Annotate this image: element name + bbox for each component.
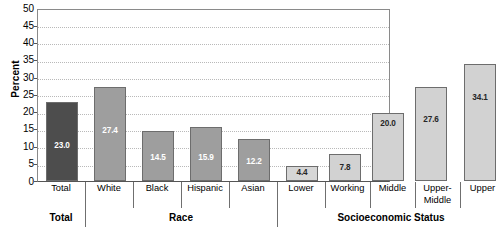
bar-total[interactable]: 23.0 bbox=[46, 102, 78, 181]
y-tick-label-0: 0 bbox=[12, 176, 34, 187]
x-label-separator-8 bbox=[415, 182, 416, 208]
x-axis-group-labels: Total Race Socioeconomic Status bbox=[37, 211, 390, 231]
bar-value-middle: 20.0 bbox=[373, 119, 403, 128]
bar-value-upper: 34.1 bbox=[465, 93, 495, 102]
x-label-separator-2 bbox=[133, 182, 134, 208]
bar-value-total: 23.0 bbox=[47, 141, 77, 150]
x-label-upper-middle: Upper- Middle bbox=[415, 183, 460, 206]
bar-asian[interactable]: 12.2 bbox=[238, 139, 270, 181]
y-tick-label-15: 15 bbox=[12, 123, 34, 134]
bar-lower[interactable]: 4.4 bbox=[286, 166, 318, 181]
y-tick-label-20: 20 bbox=[12, 106, 34, 117]
bar-value-upper-middle: 27.6 bbox=[416, 115, 446, 124]
x-label-asian: Asian bbox=[229, 183, 277, 195]
x-label-separator-7 bbox=[370, 182, 371, 208]
x-label-separator-6 bbox=[325, 182, 326, 208]
plot-area: 23.0 27.4 14.5 15.9 12.2 4.4 7.8 20.0 bbox=[37, 9, 390, 182]
x-label-white: White bbox=[85, 183, 133, 195]
x-label-upper-middle-line2: Middle bbox=[424, 195, 451, 205]
group-label-total: Total bbox=[37, 211, 85, 224]
bar-upper-middle[interactable]: 27.6 bbox=[415, 87, 447, 181]
bar-value-white: 27.4 bbox=[95, 126, 125, 135]
x-label-hispanic: Hispanic bbox=[181, 183, 229, 195]
x-label-working: Working bbox=[325, 183, 370, 195]
bar-value-hispanic: 15.9 bbox=[191, 153, 221, 162]
y-tick-label-10: 10 bbox=[12, 141, 34, 152]
group-separator-1 bbox=[85, 207, 86, 227]
y-tick-label-50: 50 bbox=[12, 3, 34, 14]
bar-value-asian: 12.2 bbox=[239, 157, 269, 166]
x-label-middle: Middle bbox=[370, 183, 415, 195]
x-label-upper-middle-line1: Upper- bbox=[423, 183, 451, 193]
bar-white[interactable]: 27.4 bbox=[94, 87, 126, 181]
x-label-separator-5 bbox=[277, 182, 278, 208]
x-label-black: Black bbox=[133, 183, 181, 195]
y-tick-label-45: 45 bbox=[12, 20, 34, 31]
x-axis-labels: Total White Black Hispanic Asian Lower W… bbox=[37, 183, 390, 209]
group-label-ses: Socioeconomic Status bbox=[277, 211, 500, 224]
bar-value-lower: 4.4 bbox=[287, 168, 317, 177]
x-label-upper: Upper bbox=[460, 183, 500, 195]
bar-value-black: 14.5 bbox=[143, 153, 173, 162]
x-label-total: Total bbox=[37, 183, 85, 195]
y-tick-label-25: 25 bbox=[12, 89, 34, 100]
bar-working[interactable]: 7.8 bbox=[329, 154, 361, 181]
bar-upper[interactable]: 34.1 bbox=[464, 64, 496, 181]
x-label-separator-3 bbox=[181, 182, 182, 208]
y-tick-label-30: 30 bbox=[12, 72, 34, 83]
y-tick-label-35: 35 bbox=[12, 54, 34, 65]
x-label-separator-9 bbox=[460, 182, 461, 208]
bar-middle[interactable]: 20.0 bbox=[372, 113, 404, 181]
bar-black[interactable]: 14.5 bbox=[142, 131, 174, 181]
x-label-lower: Lower bbox=[277, 183, 325, 195]
y-tick-label-40: 40 bbox=[12, 37, 34, 48]
y-tick-label-5: 5 bbox=[12, 158, 34, 169]
x-label-separator-4 bbox=[229, 182, 230, 208]
x-label-separator-1 bbox=[85, 182, 86, 208]
bar-hispanic[interactable]: 15.9 bbox=[190, 127, 222, 181]
bar-series: 23.0 27.4 14.5 15.9 12.2 4.4 7.8 20.0 bbox=[38, 10, 389, 181]
group-separator-2 bbox=[277, 207, 278, 227]
bar-value-working: 7.8 bbox=[330, 163, 360, 172]
group-label-race: Race bbox=[85, 211, 277, 224]
